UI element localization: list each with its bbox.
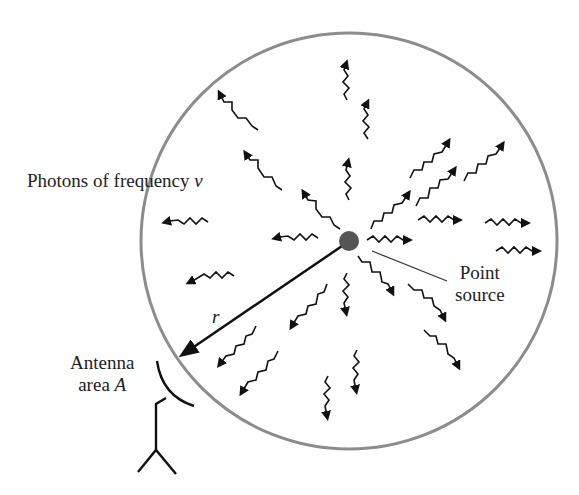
radius-arrow xyxy=(182,244,345,355)
photon-downleft-1 xyxy=(292,284,327,326)
antenna-label: Antenna area A xyxy=(70,352,134,396)
photon-emission-diagram xyxy=(0,0,579,495)
photon-upright-2 xyxy=(416,170,454,206)
antenna-area-symbol: A xyxy=(115,374,127,395)
photon-left-3 xyxy=(190,272,234,282)
point-source-label-line1: Point xyxy=(455,262,505,284)
photon-downright-1 xyxy=(358,256,392,292)
point-source-label: Point source xyxy=(455,262,505,306)
photon-right-4 xyxy=(496,247,537,253)
photon-upright-4 xyxy=(371,194,408,229)
photon-upleft-3 xyxy=(304,193,340,229)
photon-upright-3 xyxy=(464,145,502,181)
photon-downleft-3 xyxy=(242,351,278,392)
photon-left-2 xyxy=(166,218,208,224)
photon-downright-3 xyxy=(424,330,458,366)
antenna-label-prefix: area xyxy=(78,374,114,395)
photon-right-2 xyxy=(418,216,458,222)
frequency-symbol: ν xyxy=(194,170,202,191)
photon-upright-1 xyxy=(410,142,448,178)
point-source-pointer-line xyxy=(372,251,447,281)
point-source-label-line2: source xyxy=(455,284,505,306)
radius-label: r xyxy=(212,306,219,328)
photon-up-3 xyxy=(345,162,351,200)
photon-downright-2 xyxy=(408,284,444,318)
photons-label-text: Photons of frequency xyxy=(27,170,190,191)
photon-right-1 xyxy=(367,236,408,242)
antenna-figure xyxy=(138,361,194,474)
antenna-mast xyxy=(156,398,166,450)
photon-down-2 xyxy=(353,350,359,390)
antenna-label-line1: Antenna xyxy=(70,352,134,374)
photon-left-1 xyxy=(276,234,318,240)
photon-right-3 xyxy=(485,219,526,225)
antenna-legs xyxy=(138,450,176,474)
photon-upleft-2 xyxy=(246,154,282,190)
photons-label: Photons of frequency ν xyxy=(27,170,203,192)
antenna-label-line2: area A xyxy=(70,374,134,396)
point-source-dot xyxy=(339,231,359,251)
photon-down-3 xyxy=(324,376,330,416)
photon-up-2 xyxy=(363,103,369,139)
photon-upleft-1 xyxy=(220,94,258,130)
photon-downleft-2 xyxy=(220,326,256,364)
photon-down-1 xyxy=(343,273,349,312)
photon-up-1 xyxy=(343,64,349,100)
